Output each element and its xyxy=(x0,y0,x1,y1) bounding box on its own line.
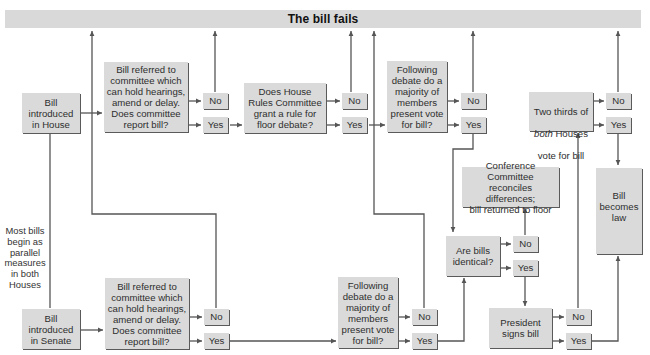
override-line1: Two thirds of xyxy=(531,106,591,117)
override-line2: both Houses xyxy=(531,128,591,139)
house-floor-yes: Yes xyxy=(461,117,486,133)
house-committee-no: No xyxy=(203,93,228,109)
senate-committee-no: No xyxy=(204,309,229,325)
president-yes: Yes xyxy=(566,333,591,349)
house-rules-no: No xyxy=(342,93,367,109)
house-committee-box: Bill referred to committee which can hol… xyxy=(104,62,188,132)
senate-floor-yes: Yes xyxy=(412,333,437,349)
senate-floor-no: No xyxy=(412,309,437,325)
house-floor-box: Following debate do a majority of member… xyxy=(387,61,447,132)
bill-fails-bar: The bill fails xyxy=(5,10,641,28)
bill-becomes-law-box: Bill becomes law xyxy=(596,168,642,254)
house-floor-no: No xyxy=(461,93,486,109)
president-no: No xyxy=(566,309,591,325)
house-rules-box: Does House Rules Committee grant a rule … xyxy=(244,83,326,133)
senate-intro-box: Bill introduced in Senate xyxy=(22,309,80,349)
override-no: No xyxy=(606,93,631,109)
override-houses: Houses xyxy=(553,128,588,139)
identical-yes: Yes xyxy=(513,260,538,276)
senate-committee-yes: Yes xyxy=(204,333,229,349)
house-committee-yes: Yes xyxy=(203,117,228,133)
senate-floor-box: Following debate do a majority of member… xyxy=(338,277,398,348)
bill-fails-title: The bill fails xyxy=(5,10,641,28)
identical-no: No xyxy=(513,236,538,252)
override-both: both xyxy=(534,128,553,139)
house-rules-yes: Yes xyxy=(342,117,367,133)
override-yes: Yes xyxy=(606,117,631,133)
president-box: President signs bill xyxy=(489,308,552,348)
house-intro-box: Bill introduced in House xyxy=(22,93,80,133)
override-box: Two thirds of both Houses vote for bill xyxy=(529,92,593,131)
parallel-measures-note: Most bills begin as parallel measures in… xyxy=(2,226,48,291)
conference-committee-box: Conference Committee reconciles differen… xyxy=(462,167,559,207)
senate-committee-box: Bill referred to committee which can hol… xyxy=(105,278,189,349)
identical-box: Are bills identical? xyxy=(446,236,500,276)
